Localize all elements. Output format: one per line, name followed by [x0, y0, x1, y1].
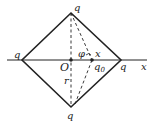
label-angle-phi: φ — [78, 48, 85, 59]
label-right-charge: q — [120, 61, 126, 72]
diagram-canvas: q q q q O q0 x φ r x — [0, 0, 155, 131]
label-test-charge: q0 — [94, 61, 105, 74]
label-left-charge: q — [14, 49, 20, 60]
label-origin: O — [60, 61, 69, 74]
angle-arc — [86, 54, 91, 56]
dashed-line-bottom-to-q0 — [75, 60, 92, 104]
label-distance-r: r — [64, 75, 70, 86]
label-axis-x: x — [141, 61, 147, 72]
origin-point — [69, 58, 73, 62]
label-top-charge: q — [74, 2, 80, 13]
label-distance-x: x — [95, 48, 101, 59]
label-bottom-charge: q — [67, 110, 73, 121]
